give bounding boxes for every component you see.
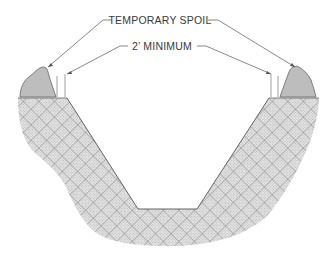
leader-spoil-right — [208, 20, 295, 67]
label-temporary-spoil: TEMPORARY SPOIL — [109, 14, 212, 26]
leader-minimum-left — [67, 46, 128, 74]
spoil-pile-left — [20, 67, 56, 97]
leader-minimum-right — [197, 46, 271, 74]
arrowhead-minimum-right — [266, 71, 271, 74]
arrowhead-spoil-right — [290, 63, 295, 67]
spoil-pile-right — [280, 66, 316, 97]
trench-spoil-diagram: TEMPORARY SPOIL 2’ MINIMUM — [0, 0, 335, 261]
soil-body — [18, 98, 319, 246]
label-2ft-minimum: 2’ MINIMUM — [132, 40, 192, 52]
leader-spoil-left — [48, 20, 112, 67]
